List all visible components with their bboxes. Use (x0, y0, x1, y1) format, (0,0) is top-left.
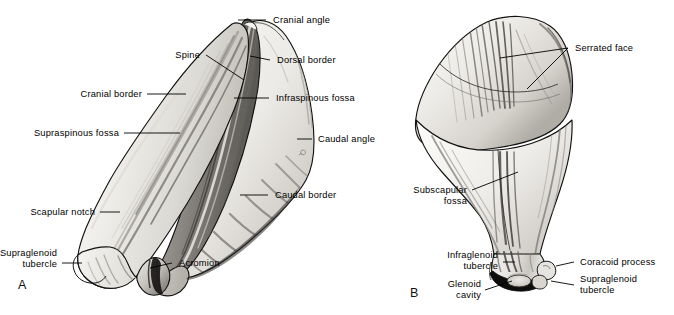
label-infraglenoid-tubercle-line2: tubercle (463, 261, 498, 271)
panel-letter-b: B (410, 286, 418, 300)
supraglenoid-tubercle-b (532, 275, 547, 289)
label-glenoid-cavity-line1: Glenoid (448, 279, 481, 289)
label-infraspinous-fossa: Infraspinous fossa (276, 93, 355, 103)
label-supraglenoid-tubercle-a-line2: tubercle (22, 259, 57, 269)
label-caudal-border: Caudal border (275, 190, 336, 200)
label-supraglenoid-tubercle-a-line1: Supraglenoid (0, 248, 57, 258)
scapula-illustration: Cranial angle Spine Dorsal border Crania… (0, 0, 674, 315)
label-infraglenoid-tubercle-line1: Infraglenoid (447, 250, 498, 260)
label-supraglenoid-tubercle-b-line1: Supraglenoid (580, 274, 637, 284)
label-acromion: Acromion (179, 258, 220, 268)
label-cranial-border: Cranial border (80, 89, 142, 99)
anatomy-figure: Cranial angle Spine Dorsal border Crania… (0, 0, 674, 315)
label-subscapular-fossa-line2: fossa (444, 196, 468, 206)
label-dorsal-border: Dorsal border (277, 55, 336, 65)
label-supraglenoid-tubercle-b-line2: tubercle (580, 285, 615, 295)
label-scapular-notch: Scapular notch (30, 207, 95, 217)
label-coracoid-process: Coracoid process (580, 257, 655, 267)
label-spine: Spine (175, 50, 200, 60)
label-supraspinous-fossa: Supraspinous fossa (34, 128, 120, 138)
label-caudal-angle: Caudal angle (318, 134, 375, 144)
label-subscapular-fossa-line1: Subscapular (413, 185, 467, 195)
label-glenoid-cavity-line2: cavity (456, 290, 481, 300)
label-serrated-face: Serrated face (575, 43, 633, 53)
label-cranial-angle: Cranial angle (273, 15, 330, 25)
panel-letter-a: A (18, 278, 27, 292)
